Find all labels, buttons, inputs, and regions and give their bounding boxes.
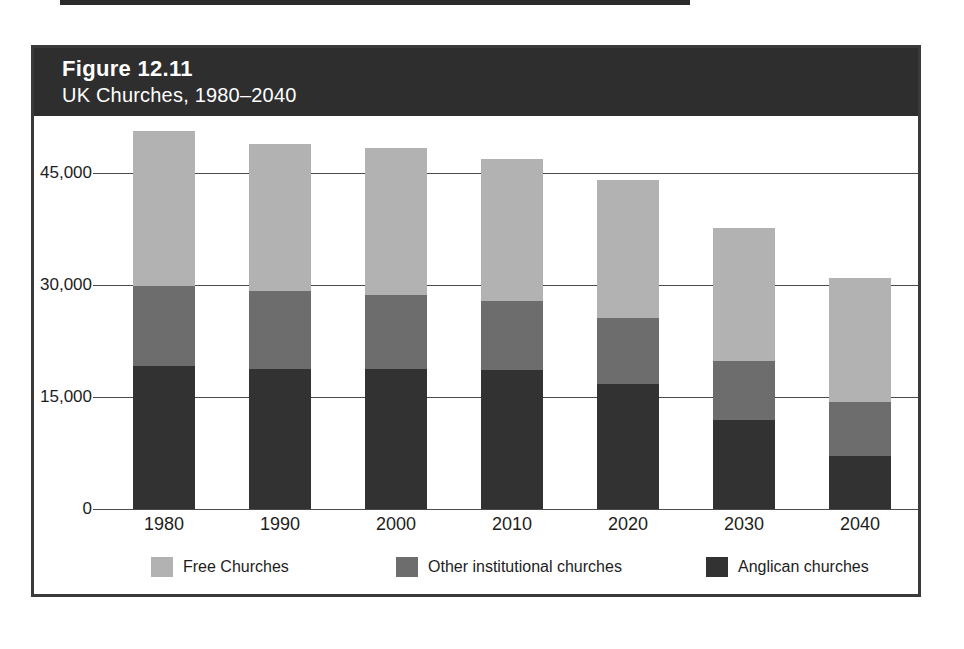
bar-segment[interactable] [597, 180, 659, 317]
bar-segment[interactable] [713, 361, 775, 420]
bar-segment[interactable] [249, 369, 311, 509]
bar-segment[interactable] [365, 369, 427, 509]
x-axis-tick-label: 2040 [800, 514, 920, 535]
bar-stack[interactable] [713, 228, 775, 509]
bar-segment[interactable] [133, 286, 195, 367]
legend-label: Free Churches [183, 558, 289, 576]
bar-segment[interactable] [481, 301, 543, 370]
legend-label: Anglican churches [738, 558, 869, 576]
bar-segment[interactable] [133, 131, 195, 286]
bar-segment[interactable] [481, 370, 543, 509]
bar-segment[interactable] [713, 228, 775, 362]
page-top-edge-strip [60, 0, 690, 5]
bar-segment[interactable] [365, 295, 427, 370]
bar-segment[interactable] [829, 456, 891, 509]
x-axis-tick-label: 2010 [452, 514, 572, 535]
bar-segment[interactable] [249, 291, 311, 369]
x-axis-tick-label: 2000 [336, 514, 456, 535]
bar-stack[interactable] [133, 131, 195, 509]
figure-header-band: Figure 12.11 UK Churches, 1980–2040 [34, 48, 918, 116]
legend-item[interactable]: Other institutional churches [396, 556, 622, 578]
bar-segment[interactable] [597, 384, 659, 509]
bar-segment[interactable] [597, 318, 659, 384]
x-axis-tick-label: 1980 [104, 514, 224, 535]
legend-label: Other institutional churches [428, 558, 622, 576]
legend-item[interactable]: Free Churches [151, 556, 289, 578]
bar-segment[interactable] [133, 366, 195, 509]
figure-number: Figure 12.11 [62, 56, 918, 82]
x-axis-tick-label: 2020 [568, 514, 688, 535]
bar-segment[interactable] [365, 148, 427, 295]
legend-item[interactable]: Anglican churches [706, 556, 869, 578]
figure-caption: UK Churches, 1980–2040 [62, 82, 918, 108]
legend-swatch-other-institutional [396, 557, 418, 577]
bar-segment[interactable] [829, 278, 891, 401]
bar-segment[interactable] [713, 420, 775, 509]
bar-stack[interactable] [249, 144, 311, 509]
chart-legend: Free ChurchesOther institutional churche… [106, 556, 918, 582]
figure-box: Figure 12.11 UK Churches, 1980–2040 015,… [31, 45, 921, 597]
chart-plot-area: 015,00030,00045,000 19801990200020102020… [34, 116, 918, 600]
bar-segment[interactable] [481, 159, 543, 301]
legend-swatch-free-churches [151, 557, 173, 577]
chart-canvas: 015,00030,00045,000 19801990200020102020… [34, 116, 918, 600]
bar-segment[interactable] [829, 402, 891, 457]
x-axis-tick-label: 2030 [684, 514, 804, 535]
bar-stack[interactable] [365, 148, 427, 509]
bar-stack[interactable] [481, 159, 543, 509]
bar-stack[interactable] [597, 180, 659, 509]
legend-swatch-anglican [706, 557, 728, 577]
bar-stack[interactable] [829, 278, 891, 509]
x-axis-tick-label: 1990 [220, 514, 340, 535]
bar-segment[interactable] [249, 144, 311, 291]
